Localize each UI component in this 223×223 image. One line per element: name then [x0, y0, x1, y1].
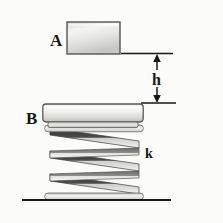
spring-coil-back-1 [50, 148, 139, 158]
diagram-canvas: A B h k [0, 0, 223, 223]
spring [45, 125, 144, 200]
arrowhead-down-icon [153, 95, 161, 103]
arrowhead-up-icon [153, 54, 161, 62]
block-a-body [67, 22, 120, 54]
block-b-lip [48, 122, 138, 128]
block-a-highlight [69, 24, 118, 26]
block-a [67, 22, 120, 54]
block-a-label: A [50, 31, 63, 50]
block-b [43, 104, 143, 128]
spring-constant-label: k [145, 146, 153, 161]
spring-bottom-turn [45, 193, 144, 200]
spring-coil-back-2 [50, 171, 139, 181]
drop-height-label: h [152, 71, 161, 88]
physics-diagram-figure: A B h k [0, 0, 223, 223]
block-b-label: B [26, 109, 37, 128]
